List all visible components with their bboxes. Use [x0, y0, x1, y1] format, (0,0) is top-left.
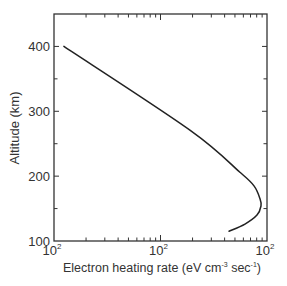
y-tick-labels: 100200300400 [28, 39, 50, 249]
chart: 100200300400 102102102 Altitude (km) Ele… [0, 0, 287, 286]
x-axis-label-end: ) [257, 261, 261, 275]
x-tick-label: 102 [149, 242, 168, 258]
y-tick-label: 400 [28, 39, 50, 54]
x-tick-label: 102 [43, 242, 62, 258]
y-axis-label: Altitude (km) [7, 92, 22, 165]
tick-marks [54, 14, 267, 241]
x-axis-label-main: Electron heating rate (eV cm [63, 261, 221, 275]
series-line-electron-heating [64, 46, 261, 231]
x-axis-label: Electron heating rate (eV cm-3 sec-1) [63, 261, 261, 275]
x-axis-label-mid: sec [228, 261, 251, 275]
x-tick-label: 102 [256, 242, 275, 258]
y-tick-label: 300 [28, 104, 50, 119]
plot-frame [54, 14, 267, 241]
y-tick-label: 200 [28, 169, 50, 184]
x-tick-labels: 102102102 [43, 242, 275, 258]
